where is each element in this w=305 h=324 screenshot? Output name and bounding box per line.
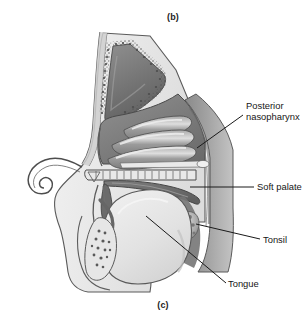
hard-palate-group bbox=[85, 170, 196, 182]
label-tonsil: Tonsil bbox=[263, 234, 287, 245]
label-posterior-nasopharynx-line1: Posterior bbox=[246, 100, 300, 111]
airway-terminal-bulb bbox=[197, 160, 209, 167]
figure-caption-c: (c) bbox=[143, 300, 183, 310]
hard-palate-body bbox=[85, 170, 196, 180]
label-posterior-nasopharynx-line2: nasopharynx bbox=[246, 111, 300, 122]
figure-caption-b: (b) bbox=[153, 12, 193, 22]
label-tongue: Tongue bbox=[228, 278, 259, 289]
label-posterior-nasopharynx: Posterior nasopharynx bbox=[246, 100, 300, 123]
head-sagittal-section-illustration bbox=[0, 0, 305, 324]
anatomical-figure: Posterior nasopharynx Soft palate Tonsil… bbox=[0, 0, 305, 324]
label-soft-palate: Soft palate bbox=[257, 181, 302, 192]
